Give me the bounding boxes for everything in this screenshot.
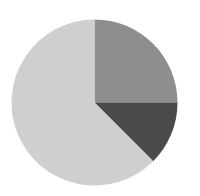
pie-slice-1 bbox=[95, 20, 178, 103]
pie-chart bbox=[0, 0, 200, 196]
